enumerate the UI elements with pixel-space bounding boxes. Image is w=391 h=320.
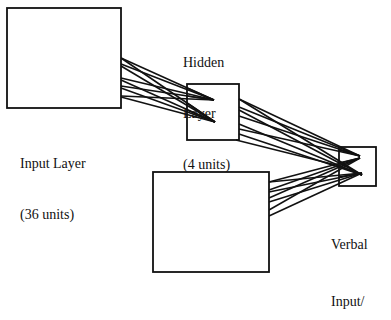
verbal-layer-name-2: Input/ <box>331 292 378 311</box>
input-layer-box <box>7 8 121 108</box>
input-layer-name: Input Layer <box>20 155 86 172</box>
input-layer-units: (36 units) <box>20 206 86 223</box>
hidden-layer-label: Hidden Layer (4 units) <box>183 20 230 190</box>
hidden-layer-name-2: Layer <box>183 105 230 122</box>
input-layer-label: Input Layer (36 units) <box>20 121 86 240</box>
output-layer-label: Output Layer (36 units) <box>167 285 242 320</box>
verbal-layer-name-1: Verbal <box>331 235 378 254</box>
hidden-layer-name-1: Hidden <box>183 54 230 71</box>
verbal-layer-label: Verbal Input/ Output Layer (4 units) <box>331 197 378 320</box>
hidden-layer-units: (4 units) <box>183 156 230 173</box>
